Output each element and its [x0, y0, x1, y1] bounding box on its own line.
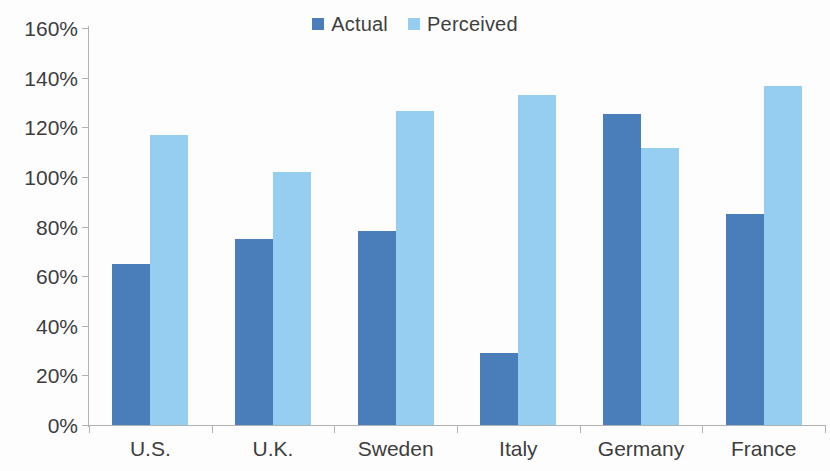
bar-group-us	[89, 28, 212, 425]
x-category-label: U.K.	[212, 436, 335, 461]
x-category-label: Italy	[457, 436, 580, 461]
x-category-label: France	[702, 436, 825, 461]
x-tick-mark	[825, 425, 826, 433]
bar-perceived-italy[interactable]	[518, 95, 556, 425]
bar-actual-us[interactable]	[112, 264, 150, 425]
y-tick-mark	[82, 276, 89, 277]
y-tick-mark	[82, 227, 89, 228]
x-category-label: Germany	[580, 436, 703, 461]
bar-perceived-us[interactable]	[150, 135, 188, 425]
bars-layer	[89, 0, 825, 471]
bar-actual-sweden[interactable]	[358, 231, 396, 425]
bar-group-uk	[212, 28, 335, 425]
y-tick-mark	[82, 425, 89, 426]
bar-actual-uk[interactable]	[235, 239, 273, 425]
bar-perceived-france[interactable]	[764, 86, 802, 425]
bar-perceived-uk[interactable]	[273, 172, 311, 425]
y-axis-labels: 160%140%120%100%80%60%40%20%0%	[0, 0, 78, 471]
x-category-label: Sweden	[334, 436, 457, 461]
y-tick-label: 120%	[2, 117, 78, 138]
bar-perceived-sweden[interactable]	[396, 111, 434, 425]
bar-actual-germany[interactable]	[603, 114, 641, 425]
y-tick-label: 60%	[2, 266, 78, 287]
y-tick-mark	[82, 375, 89, 376]
y-tick-mark	[82, 78, 89, 79]
y-tick-label: 20%	[2, 365, 78, 386]
x-category-label: U.S.	[89, 436, 212, 461]
y-tick-label: 0%	[2, 415, 78, 436]
y-tick-label: 40%	[2, 315, 78, 336]
bar-group-sweden	[334, 28, 457, 425]
y-tick-label: 80%	[2, 216, 78, 237]
bar-actual-italy[interactable]	[480, 353, 518, 425]
x-axis-labels: U.S.U.K.SwedenItalyGermanyFrance	[89, 436, 825, 471]
bar-group-germany	[580, 28, 703, 425]
y-tick-mark	[82, 28, 89, 29]
y-tick-mark	[82, 326, 89, 327]
bar-chart: ActualPerceived 160%140%120%100%80%60%40…	[0, 0, 830, 471]
bar-group-italy	[457, 28, 580, 425]
y-tick-label: 160%	[2, 18, 78, 39]
y-tick-label: 140%	[2, 67, 78, 88]
bar-group-france	[702, 28, 825, 425]
y-tick-mark	[82, 127, 89, 128]
y-tick-label: 100%	[2, 166, 78, 187]
bar-perceived-germany[interactable]	[641, 148, 679, 425]
bar-actual-france[interactable]	[726, 214, 764, 425]
y-tick-mark	[82, 177, 89, 178]
